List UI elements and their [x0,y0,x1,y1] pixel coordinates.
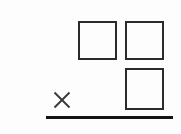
baseline-rule [46,116,173,119]
x-mark-icon[interactable] [53,91,71,109]
diagram-canvas [0,0,181,134]
square-top-left[interactable] [78,21,117,60]
square-bottom-right[interactable] [125,68,164,110]
square-top-right[interactable] [125,21,164,60]
